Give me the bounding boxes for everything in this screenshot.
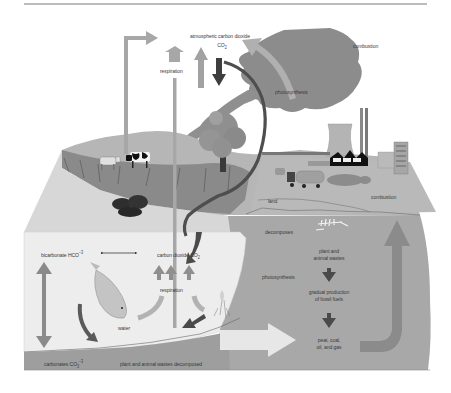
atmospheric-co2-label: atmospheric carbon dioxide	[187, 32, 253, 39]
land-label: land	[268, 197, 277, 204]
combustion-label-ground: combustion	[371, 193, 396, 200]
photosynthesis-arrow-up	[194, 47, 208, 88]
smokestack-icon	[365, 108, 368, 158]
water-label: water	[118, 324, 130, 331]
gradual-production-label: gradual productionof fossil fuels	[304, 288, 355, 302]
atmospheric-co2-formula: CO2	[214, 41, 230, 50]
respiration-label-top: respiration	[160, 67, 183, 74]
photosynthesis-label-top: photosynthesis	[275, 88, 308, 95]
fossil-fuels-label: peat, coal,oil, and gas	[308, 336, 351, 350]
photosynthesis-label-water: photosynthesis	[262, 273, 295, 280]
bicarbonate-label: bicarbonate HCO−3	[41, 250, 83, 258]
smokestack-icon	[360, 108, 363, 158]
wastes-decomposed-label: plant and animal wastes decomposed	[120, 360, 202, 367]
decomposes-label: decomposes	[265, 228, 293, 235]
carbon-dioxide-water-label: carbon dioxide CO2	[157, 251, 200, 260]
carbonates-label: carbonates CO3−3	[44, 359, 83, 369]
respiration-label-water: respiration	[160, 286, 183, 293]
plant-animal-wastes-label: plant andanimal wastes	[308, 247, 351, 261]
combustion-label-cloud: combustion	[353, 42, 378, 49]
